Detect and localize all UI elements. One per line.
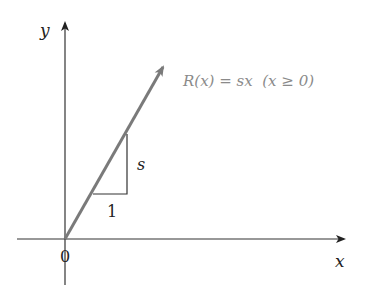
formula-label: R(x) = sx (x ≥ 0) [182, 72, 314, 90]
origin-label: 0 [60, 247, 70, 266]
rise-label: s [137, 155, 145, 174]
run-label: 1 [107, 202, 117, 221]
y-axis-label: y [39, 20, 50, 40]
x-axis-label: x [335, 251, 345, 271]
slope-triangle [93, 134, 127, 194]
linear-function-diagram: y x 0 s 1 R(x) = sx (x ≥ 0) [0, 0, 367, 300]
